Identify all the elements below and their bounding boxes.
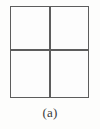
quadrant-top-right (51, 7, 88, 49)
figure-caption: (a) (0, 105, 100, 121)
figure-panel: (a) (0, 0, 100, 129)
quadrant-top-left (11, 7, 49, 49)
quadrant-bottom-right (51, 51, 88, 97)
quadrant-bottom-left (11, 51, 49, 97)
